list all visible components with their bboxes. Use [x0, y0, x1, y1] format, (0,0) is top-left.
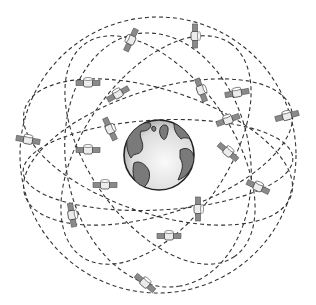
satellite-icon: [157, 231, 181, 241]
gps-constellation-illustration: [0, 0, 316, 305]
satellite-icon: [274, 108, 300, 123]
satellite-icon: [76, 145, 100, 155]
earth-globe: [124, 120, 194, 190]
satellite-icon: [93, 180, 117, 190]
satellite-icon: [245, 177, 271, 196]
satellite-icon: [224, 85, 249, 99]
satellite-icon: [15, 132, 40, 146]
satellite-icon: [66, 202, 80, 227]
satellite-icon: [193, 77, 210, 103]
satellite-icon: [101, 116, 120, 142]
satellite-icon: [191, 24, 201, 48]
satellite-icon: [121, 27, 140, 53]
satellite-icon: [216, 140, 240, 163]
satellite-icon: [133, 271, 157, 294]
satellite-icon: [194, 197, 204, 221]
